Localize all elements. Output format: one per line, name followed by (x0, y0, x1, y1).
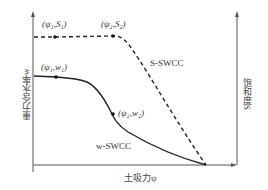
right-axis-label: 饱和度S (241, 78, 254, 118)
s-point-2 (111, 34, 115, 38)
left-axis-label: 重力含水率w (19, 50, 32, 120)
w-point-2-label: (ψ₂,w₂) (118, 108, 144, 118)
s-point-2-label: (ψ₂,S₂) (101, 19, 126, 29)
x-axis-arrow-icon (231, 163, 237, 167)
x-axis-label: 土吸力ψ (124, 171, 157, 184)
w-point-1 (54, 75, 58, 79)
s-point-1-label: (ψ₁,S₁) (42, 19, 67, 29)
w-swcc-label: w-SWCC (96, 141, 131, 151)
w-point-2 (111, 112, 115, 116)
left-axis-arrow-icon (31, 11, 35, 17)
right-axis-arrow-icon (235, 11, 239, 17)
s-swcc-label: S-SWCC (150, 58, 184, 68)
s-point-1 (53, 35, 57, 39)
w-point-1-label: (ψ₁,w₁) (41, 62, 67, 72)
w-swcc-curve (34, 76, 206, 165)
swcc-diagram (0, 0, 268, 190)
